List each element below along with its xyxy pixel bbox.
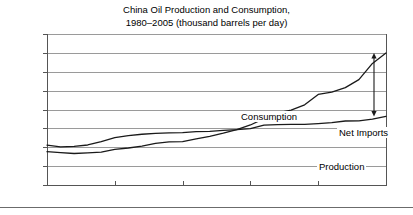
arrow-head: [371, 53, 376, 59]
label-consumption: Consumption: [239, 111, 299, 122]
plot-area: 01,0002,0003,0004,0005,0006,0007,0008,00…: [47, 34, 387, 186]
chart-title: China Oil Production and Consumption, 19…: [0, 4, 413, 29]
chart-title-line1: China Oil Production and Consumption,: [0, 4, 413, 17]
line-consumption: [47, 53, 386, 153]
bottom-divider: [0, 207, 413, 208]
chart-figure: China Oil Production and Consumption, 19…: [0, 0, 413, 215]
label-production: Production: [317, 161, 366, 172]
net-imports-arrow: [371, 53, 376, 116]
line-production: [47, 116, 386, 146]
arrow-head: [371, 111, 376, 117]
chart-title-line2: 1980–2005 (thousand barrels per day): [0, 17, 413, 30]
label-net-imports: Net Imports: [337, 127, 390, 138]
